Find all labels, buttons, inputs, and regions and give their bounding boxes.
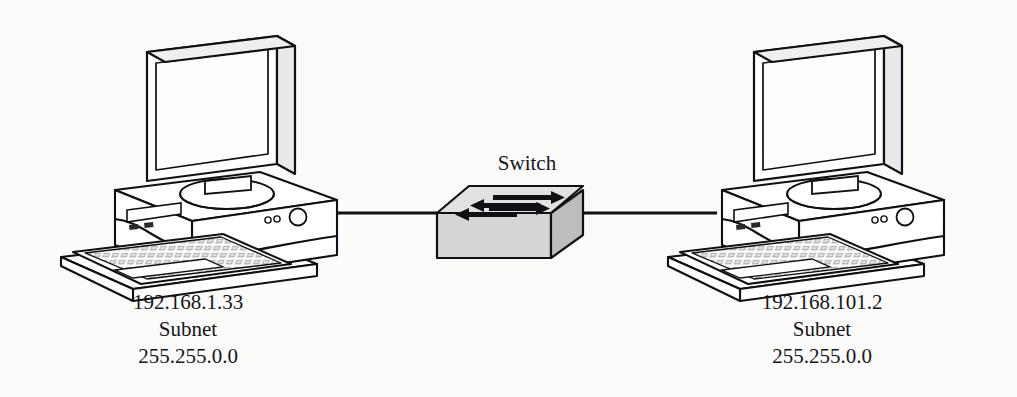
right-host-subnet-label: Subnet [793,317,852,341]
left-host-subnet-label: Subnet [159,317,218,341]
right-host-ip-address: 192.168.101.2 [762,290,883,314]
network-diagram: 192.168.1.33 Subnet 255.255.0.0 [0,0,1017,397]
diagram-canvas: 192.168.1.33 Subnet 255.255.0.0 [0,0,1017,397]
left-host-subnet-mask: 255.255.0.0 [138,344,238,368]
desktop-computer-icon [61,36,337,301]
left-host-ip-address: 192.168.1.33 [133,290,243,314]
network-switch-icon [437,186,583,258]
desktop-computer-icon [668,36,944,301]
right-host-subnet-mask: 255.255.0.0 [772,344,872,368]
switch-node[interactable]: Switch [437,151,583,258]
switch-label: Switch [498,151,557,175]
left-host-node[interactable]: 192.168.1.33 Subnet 255.255.0.0 [61,36,337,368]
right-host-node[interactable]: 192.168.101.2 Subnet 255.255.0.0 [668,36,944,368]
